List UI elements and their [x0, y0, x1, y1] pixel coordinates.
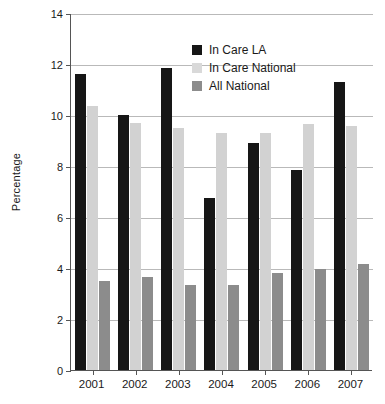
bar: [303, 124, 314, 370]
y-tick-label: 14: [51, 8, 63, 20]
bar: [216, 133, 227, 370]
legend-item: All National: [192, 78, 296, 94]
bar: [315, 269, 326, 370]
bar: [272, 273, 283, 370]
bar: [87, 106, 98, 370]
y-tick-label: 10: [51, 110, 63, 122]
bar: [334, 82, 345, 370]
x-tick-mark: [351, 370, 352, 375]
y-tick-label: 6: [57, 212, 63, 224]
legend-item: In Care National: [192, 60, 296, 76]
y-axis-title: Percentage: [10, 122, 22, 242]
bar: [291, 170, 302, 370]
y-tick-label: 4: [57, 263, 63, 275]
x-tick-label: 2001: [79, 378, 105, 390]
x-tick-mark: [222, 370, 223, 375]
y-tick-label: 2: [57, 314, 63, 326]
bar: [346, 126, 357, 370]
bar: [142, 277, 153, 370]
bar: [75, 74, 86, 370]
bar: [260, 133, 271, 370]
y-tick-label: 12: [51, 59, 63, 71]
x-tick-label: 2002: [122, 378, 148, 390]
x-tick-label: 2006: [294, 378, 320, 390]
x-tick-label: 2005: [251, 378, 277, 390]
y-tick-label: 0: [57, 365, 63, 377]
bar: [204, 198, 215, 370]
chart-legend: In Care LAIn Care NationalAll National: [192, 42, 296, 94]
bar: [248, 143, 259, 370]
legend-item: In Care LA: [192, 42, 296, 58]
y-tick-mark: [66, 371, 71, 372]
bar: [99, 281, 110, 370]
bar: [185, 285, 196, 370]
bar-group: [71, 13, 114, 370]
legend-swatch-icon: [192, 81, 202, 91]
x-tick-label: 2003: [165, 378, 191, 390]
bar: [173, 128, 184, 370]
legend-swatch-icon: [192, 63, 202, 73]
legend-label: In Care LA: [209, 43, 266, 57]
bar: [118, 115, 129, 370]
bar: [161, 68, 172, 370]
bar-chart: Percentage 02468101214 20012002200320042…: [0, 0, 385, 404]
x-tick-mark: [265, 370, 266, 375]
x-tick-label: 2007: [338, 378, 364, 390]
bar: [358, 264, 369, 370]
bar: [228, 285, 239, 370]
y-tick-label: 8: [57, 161, 63, 173]
bar-group: [114, 13, 157, 370]
x-tick-label: 2004: [208, 378, 234, 390]
legend-swatch-icon: [192, 45, 202, 55]
x-tick-mark: [93, 370, 94, 375]
x-tick-mark: [179, 370, 180, 375]
legend-label: In Care National: [209, 61, 296, 75]
bar-group: [330, 13, 373, 370]
bar: [130, 123, 141, 370]
x-tick-mark: [136, 370, 137, 375]
legend-label: All National: [209, 79, 270, 93]
x-tick-mark: [308, 370, 309, 375]
